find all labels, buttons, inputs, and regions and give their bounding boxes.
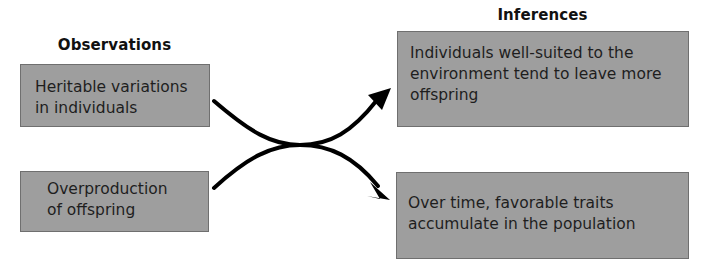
arrow-top-curve-icon	[214, 88, 391, 145]
box-text-line: accumulate in the population	[408, 214, 688, 235]
box-text-line: Overproduction	[47, 179, 208, 200]
observations-heading: Observations	[20, 36, 209, 54]
box-text-line: environment tend to leave more	[410, 64, 688, 85]
box-text-line: Individuals well-suited to the	[410, 43, 688, 64]
box-text-line: of offspring	[47, 200, 208, 221]
inference-box-well-suited-individuals: Individuals well-suited to the environme…	[397, 31, 689, 127]
inference-box-favorable-traits: Over time, favorable traits accumulate i…	[396, 172, 689, 259]
arrow-bottom-curve-icon	[214, 145, 390, 200]
box-text-line: Over time, favorable traits	[408, 193, 688, 214]
box-text-line: Heritable variations	[35, 77, 209, 98]
observation-box-heritable-variations: Heritable variations in individuals	[20, 64, 210, 127]
inferences-heading: Inferences	[397, 6, 688, 24]
observation-box-overproduction: Overproduction of offspring	[20, 171, 209, 232]
box-text-line: in individuals	[35, 98, 209, 119]
box-text-line: offspring	[410, 85, 688, 106]
